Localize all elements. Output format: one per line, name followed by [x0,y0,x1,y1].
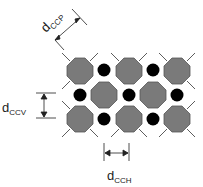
dimension-cch [104,143,129,161]
octagon-pad [164,58,190,84]
octagon-pad [91,82,117,108]
via-dot [98,64,111,77]
octagon-pad [67,58,93,84]
via-dot [74,89,87,102]
via-dot [123,89,136,102]
octagon-pad [164,106,190,132]
pitch-layout-diagram: dCCP dCCV dCCH [0,0,203,187]
via-dot [147,64,160,77]
octagon-pad [116,58,142,84]
label-d-ccv: dCCV [2,100,27,117]
label-d-cch: dCCH [107,168,132,185]
dimension-ccv [36,93,56,118]
via-dot [98,113,111,126]
via-dot [171,89,184,102]
octagon-pad [116,106,142,132]
octagon-pad [140,82,166,108]
octagon-pad [67,106,93,132]
via-dot [147,113,160,126]
label-d-ccp: dCCP [38,7,67,36]
